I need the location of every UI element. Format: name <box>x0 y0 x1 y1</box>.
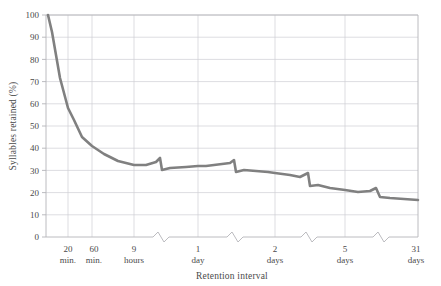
y-tick-label: 10 <box>30 210 40 220</box>
x-tick-label-line2: days <box>267 255 284 265</box>
y-tick-label: 30 <box>30 166 40 176</box>
x-tick-label-line2: min. <box>60 255 76 265</box>
x-tick-label-line1: 60 <box>90 244 100 254</box>
x-tick-label-line1: 5 <box>343 244 348 254</box>
x-tick-label-line2: days <box>337 255 354 265</box>
x-tick-label-line2: day <box>192 255 205 265</box>
x-tick-label-line2: min. <box>86 255 102 265</box>
y-axis-title: Syllables retained (%) <box>8 82 19 171</box>
y-tick-label: 90 <box>30 32 40 42</box>
y-tick-label: 70 <box>30 77 40 87</box>
y-tick-label: 50 <box>30 121 40 131</box>
x-tick-label-line2: hours <box>124 255 144 265</box>
y-tick-label: 80 <box>30 55 40 65</box>
x-tick-label-line1: 9 <box>132 244 137 254</box>
x-tick-label-line1: 20 <box>64 244 74 254</box>
y-tick-label: 60 <box>30 99 40 109</box>
x-tick-label-line1: 2 <box>273 244 278 254</box>
x-tick-label-line1: 31 <box>412 244 421 254</box>
forgetting-curve-chart: 100 90 80 70 60 50 40 30 20 10 0 Syllabl… <box>0 0 441 286</box>
x-tick-label-line2: days <box>408 255 425 265</box>
y-tick-label: 20 <box>30 188 40 198</box>
chart-canvas: 100 90 80 70 60 50 40 30 20 10 0 Syllabl… <box>0 0 441 286</box>
y-tick-label: 100 <box>26 10 40 20</box>
x-tick-label-line1: 1 <box>196 244 201 254</box>
y-tick-label: 0 <box>35 232 40 242</box>
x-axis-title: Retention interval <box>196 271 268 281</box>
y-tick-label: 40 <box>30 143 40 153</box>
